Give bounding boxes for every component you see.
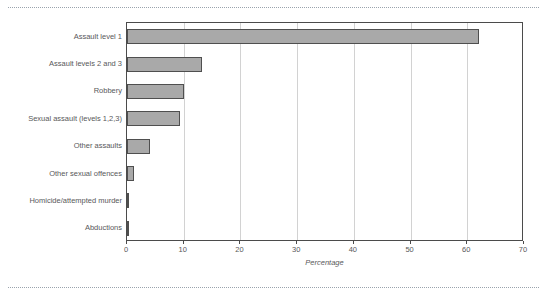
bar-row bbox=[127, 50, 522, 77]
tick-label: 50 bbox=[405, 245, 413, 254]
category-label: Robbery bbox=[0, 86, 122, 95]
bar-series bbox=[127, 23, 522, 240]
bar bbox=[127, 221, 129, 236]
tick-mark bbox=[296, 241, 297, 244]
category-label: Sexual assault (levels 1,2,3) bbox=[0, 113, 122, 122]
bar-row bbox=[127, 215, 522, 242]
tick-label: 20 bbox=[235, 245, 243, 254]
bar bbox=[127, 139, 150, 154]
tick-mark bbox=[523, 241, 524, 244]
bar-row bbox=[127, 23, 522, 50]
top-dotted-rule bbox=[8, 7, 539, 8]
x-axis-title: Percentage bbox=[126, 258, 523, 267]
category-label: Other sexual offences bbox=[0, 168, 122, 177]
tick-label: 60 bbox=[462, 245, 470, 254]
bar bbox=[127, 193, 129, 208]
plot-area bbox=[126, 22, 523, 241]
tick-mark bbox=[466, 241, 467, 244]
tick-label: 10 bbox=[179, 245, 187, 254]
tick-label: 70 bbox=[519, 245, 527, 254]
bar-row bbox=[127, 105, 522, 132]
value-axis-ticks: 010203040506070 bbox=[126, 241, 523, 255]
tick-label: 30 bbox=[292, 245, 300, 254]
bar-row bbox=[127, 133, 522, 160]
category-label: Assault level 1 bbox=[0, 31, 122, 40]
category-label: Abductions bbox=[0, 223, 122, 232]
figure: Assault level 1Assault levels 2 and 3Rob… bbox=[0, 0, 547, 296]
bar bbox=[127, 166, 134, 181]
bar bbox=[127, 29, 479, 44]
bar-row bbox=[127, 187, 522, 214]
bar-row bbox=[127, 160, 522, 187]
tick-mark bbox=[183, 241, 184, 244]
bar bbox=[127, 111, 180, 126]
category-label: Homicide/attempted murder bbox=[0, 195, 122, 204]
category-label: Assault levels 2 and 3 bbox=[0, 59, 122, 68]
tick-mark bbox=[353, 241, 354, 244]
tick-mark bbox=[239, 241, 240, 244]
tick-mark bbox=[126, 241, 127, 244]
tick-label: 40 bbox=[349, 245, 357, 254]
category-label: Other assaults bbox=[0, 141, 122, 150]
bottom-dotted-rule bbox=[8, 287, 539, 288]
category-axis-labels: Assault level 1Assault levels 2 and 3Rob… bbox=[0, 22, 122, 241]
tick-mark bbox=[410, 241, 411, 244]
tick-label: 0 bbox=[124, 245, 128, 254]
bar-row bbox=[127, 78, 522, 105]
bar bbox=[127, 84, 184, 99]
bar bbox=[127, 57, 202, 72]
